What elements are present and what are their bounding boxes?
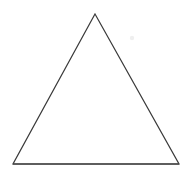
figure-canvas — [0, 0, 192, 174]
canvas-background — [0, 0, 192, 174]
triangle-figure — [0, 0, 192, 174]
faint-speck-artifact — [130, 36, 134, 40]
